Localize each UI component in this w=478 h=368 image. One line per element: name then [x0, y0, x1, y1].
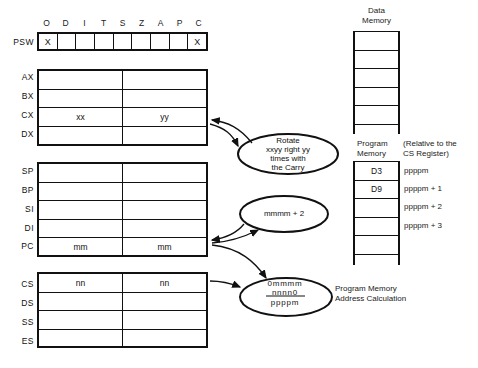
register-high: xx	[39, 108, 123, 126]
general-registers: xx yy	[37, 69, 208, 146]
register-high	[39, 311, 123, 329]
register-label: DI	[0, 223, 34, 233]
register-high	[39, 293, 123, 311]
register-row-bp	[39, 183, 206, 202]
register-high	[39, 201, 123, 219]
flag-label: A	[151, 18, 170, 28]
register-low: mm	[123, 238, 206, 255]
register-high	[39, 183, 123, 201]
memory-address: ppppm	[404, 166, 428, 175]
psw-cell	[132, 34, 151, 49]
register-high	[39, 220, 123, 238]
flag-label: C	[189, 18, 208, 28]
psw-cell	[95, 34, 114, 49]
memory-cell	[355, 50, 398, 69]
psw-cell: X	[39, 34, 58, 49]
psw-cell	[170, 34, 189, 49]
program-memory-title-line: Memory	[357, 149, 388, 159]
register-high	[39, 71, 123, 89]
register-row-di	[39, 220, 206, 239]
address-calc-label-line: Address Calculation	[335, 294, 406, 304]
flag-label: S	[113, 18, 132, 28]
register-low	[123, 71, 206, 89]
register-row-pc: mm mm	[39, 238, 206, 255]
register-row-ds	[39, 293, 206, 312]
register-label: AX	[0, 72, 34, 82]
register-label: CS	[0, 279, 34, 289]
register-label: SI	[0, 204, 34, 214]
register-high	[39, 164, 123, 182]
psw-cell	[76, 34, 95, 49]
psw-register: X X	[37, 32, 208, 51]
program-memory-title: Program Memory	[357, 139, 388, 159]
data-memory-title: Data Memory	[353, 6, 400, 26]
memory-cell	[355, 235, 398, 254]
register-label: CX	[0, 110, 34, 120]
memory-cell	[355, 105, 398, 124]
register-low: nn	[123, 274, 206, 292]
register-row-es	[39, 330, 206, 347]
register-row-dx	[39, 127, 206, 145]
program-memory-note-line: CS Register)	[403, 149, 457, 159]
register-low	[123, 201, 206, 219]
rotate-text: Rotate xxyy right yy times with the Carr…	[240, 136, 336, 172]
memory-address: ppppm + 1	[404, 184, 442, 193]
flag-label: P	[170, 18, 189, 28]
flag-label: D	[56, 18, 75, 28]
register-low	[123, 293, 206, 311]
register-low	[123, 311, 206, 329]
segment-registers: nn nn	[37, 272, 208, 348]
register-high	[39, 127, 123, 145]
memory-cell	[355, 87, 398, 106]
register-high	[39, 330, 123, 347]
memory-cell	[355, 31, 398, 50]
register-low	[123, 90, 206, 108]
register-label: PC	[0, 241, 34, 251]
register-low	[123, 127, 206, 145]
address-calc-line: nnnn0	[260, 288, 310, 297]
flag-label: O	[37, 18, 56, 28]
register-low	[123, 330, 206, 347]
register-label: ES	[0, 336, 34, 346]
register-label: BX	[0, 91, 34, 101]
psw-cell	[151, 34, 170, 49]
address-calc-line: 0mmmm	[260, 279, 310, 288]
rotate-line: xxyy right yy	[240, 145, 336, 154]
program-memory-note: (Relative to the CS Register)	[403, 139, 457, 159]
memory-cell: D9	[355, 180, 398, 199]
memory-cell	[355, 124, 398, 134]
register-low	[123, 220, 206, 238]
address-calc-result: ppppm	[260, 298, 310, 307]
psw-cell	[114, 34, 133, 49]
register-low	[123, 164, 206, 182]
rotate-line: the Carry	[240, 163, 336, 172]
register-high: mm	[39, 238, 123, 255]
program-memory-title-line: Program	[357, 139, 388, 149]
register-row-sp	[39, 164, 206, 183]
memory-cell: D3	[355, 161, 398, 180]
psw-cell: X	[188, 34, 206, 49]
program-memory-note-line: (Relative to the	[403, 139, 457, 149]
data-memory-title-line: Data	[353, 6, 400, 16]
pointer-registers: mm mm	[37, 162, 208, 257]
address-calc-label: Program Memory Address Calculation	[335, 284, 406, 304]
register-label: SS	[0, 317, 34, 327]
register-low	[123, 183, 206, 201]
flag-label: T	[94, 18, 113, 28]
flag-label: Z	[132, 18, 151, 28]
register-row-cx: xx yy	[39, 108, 206, 127]
register-row-si	[39, 201, 206, 220]
psw-label: PSW	[0, 37, 34, 47]
memory-address: ppppm + 2	[404, 202, 442, 211]
register-high	[39, 90, 123, 108]
increment-text: mmmm + 2	[240, 209, 328, 218]
memory-cell	[355, 68, 398, 87]
register-label: DX	[0, 129, 34, 139]
memory-cell	[355, 198, 398, 217]
register-row-ss	[39, 311, 206, 330]
psw-cell	[58, 34, 77, 49]
data-memory	[353, 31, 400, 134]
program-memory: D3 D9	[353, 161, 400, 265]
register-low: yy	[123, 108, 206, 126]
memory-cell	[355, 217, 398, 236]
